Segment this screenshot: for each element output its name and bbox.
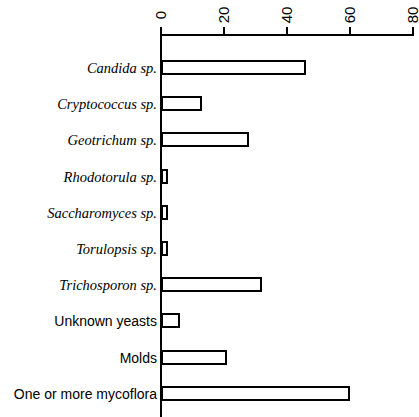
bar: [161, 386, 350, 401]
bar: [161, 60, 306, 75]
x-axis-tick-mark: [160, 27, 162, 35]
bar-category-label: Geotrichum sp.: [68, 126, 157, 154]
bar-row: Saccharomyces sp.: [0, 199, 419, 227]
bar-category-label: Unknown yeasts: [54, 307, 157, 335]
bar: [161, 205, 168, 220]
bar-category-label: Molds: [120, 344, 157, 372]
bar-row: Candida sp.: [0, 54, 419, 82]
x-axis-tick-mark: [286, 27, 288, 35]
bar: [161, 313, 180, 328]
bar-category-label: Trichosporon sp.: [59, 271, 157, 299]
x-axis-tick-label: 60: [337, 2, 363, 28]
bar-category-label: Cryptococcus sp.: [57, 90, 157, 118]
x-axis-tick-mark: [349, 27, 351, 35]
bar: [161, 96, 202, 111]
bar-row: Geotrichum sp.: [0, 126, 419, 154]
bar-row: Torulopsis sp.: [0, 235, 419, 263]
bar-row: Unknown yeasts: [0, 307, 419, 335]
bar-category-label: Rhodotorula sp.: [64, 163, 157, 191]
x-axis-tick-mark: [412, 27, 414, 35]
x-axis-tick-label: 80: [400, 2, 419, 28]
bar: [161, 169, 168, 184]
bar-category-label: Saccharomyces sp.: [47, 199, 157, 227]
x-axis-tick-mark: [223, 27, 225, 35]
bar-row: Rhodotorula sp.: [0, 163, 419, 191]
bar-row: One or more mycoflora: [0, 380, 419, 408]
bar-chart: 020406080 Candida sp.Cryptococcus sp.Geo…: [0, 0, 419, 417]
bar-row: Trichosporon sp.: [0, 271, 419, 299]
x-axis-tick-label: 40: [274, 2, 300, 28]
bar: [161, 132, 249, 147]
bar-category-label: Torulopsis sp.: [76, 235, 157, 263]
x-axis-tick-label: 0: [148, 2, 174, 28]
bar: [161, 350, 227, 365]
bar: [161, 277, 262, 292]
bar-row: Molds: [0, 344, 419, 372]
bar: [161, 241, 168, 256]
bar-category-label: Candida sp.: [87, 54, 157, 82]
x-axis-tick-label: 20: [211, 2, 237, 28]
bar-category-label: One or more mycoflora: [14, 380, 157, 408]
bar-row: Cryptococcus sp.: [0, 90, 419, 118]
